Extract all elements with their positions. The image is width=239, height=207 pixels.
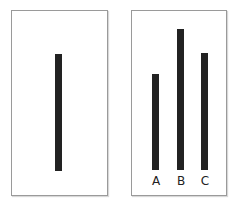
comparison-line-c xyxy=(201,53,208,170)
label-c: C xyxy=(198,175,212,187)
reference-line xyxy=(55,54,62,171)
label-a: A xyxy=(149,175,163,187)
comparison-line-b xyxy=(177,29,184,170)
label-b: B xyxy=(174,175,188,187)
comparison-line-a xyxy=(152,74,159,170)
